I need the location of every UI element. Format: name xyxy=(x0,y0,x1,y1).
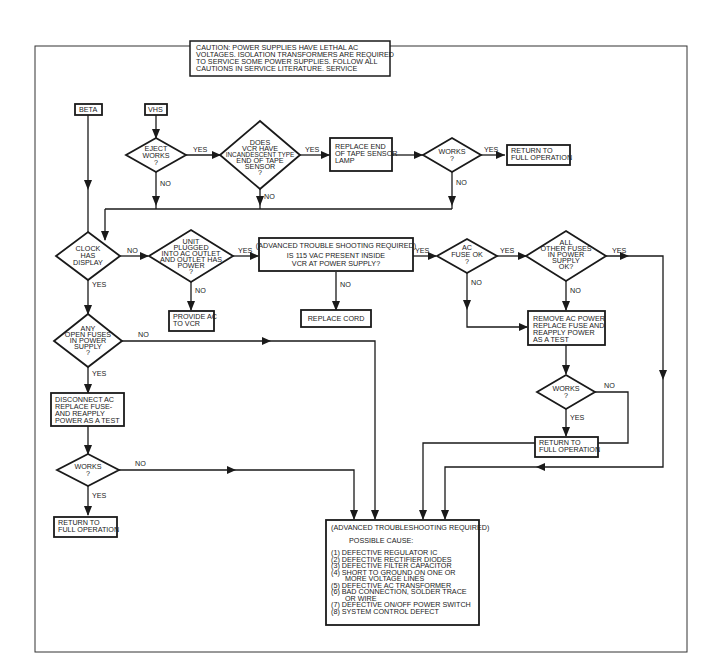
start-beta: BETA xyxy=(75,104,102,115)
action-provide-ac: PROVIDE AC TO VCR xyxy=(169,311,217,331)
action-remove-ac-power: REMOVE AC POWER REPLACE FUSE AND REAPPLY… xyxy=(528,311,605,345)
svg-text:VHS: VHS xyxy=(148,105,163,114)
result-return-left: RETURN TO FULL OPERATION xyxy=(54,517,119,537)
caution-box: CAUTION: POWER SUPPLIES HAVE LETHAL AC V… xyxy=(190,41,394,76)
decision-other-fuses-ok: ALL OTHER FUSES IN POWER SUPPLY OK? xyxy=(526,231,606,281)
svg-text:?: ? xyxy=(86,469,90,478)
svg-text:(ADVANCED TROUBLESHOOTING REQU: (ADVANCED TROUBLESHOOTING REQUIRED) xyxy=(331,523,489,532)
svg-text:YES: YES xyxy=(193,145,208,154)
svg-text:OK?: OK? xyxy=(559,262,573,271)
svg-text:NO: NO xyxy=(195,286,206,295)
svg-text:YES: YES xyxy=(238,246,253,255)
decision-ac-fuse-ok: AC FUSE OK ? xyxy=(437,239,497,273)
svg-text:VCR AT POWER SUPPLY?: VCR AT POWER SUPPLY? xyxy=(292,259,380,268)
decision-clock-display: CLOCK HAS DISPLAY xyxy=(56,232,120,280)
decision-works-right: WORKS ? xyxy=(537,375,595,409)
decision-eject-works: EJECT WORKS ? xyxy=(126,138,186,172)
svg-text:YES: YES xyxy=(570,413,585,422)
svg-text:NO: NO xyxy=(471,278,482,287)
svg-text:?: ? xyxy=(465,257,469,266)
svg-text:NO: NO xyxy=(340,280,351,289)
svg-text:YES: YES xyxy=(415,246,430,255)
action-replace-cord: REPLACE CORD xyxy=(301,310,371,327)
svg-text:REPLACE CORD: REPLACE CORD xyxy=(308,314,365,323)
svg-text:NO: NO xyxy=(138,330,149,339)
decision-unit-plugged: UNIT PLUGGED INTO AC OUTLET AND OUTLET H… xyxy=(149,230,233,282)
svg-text:LAMP: LAMP xyxy=(335,156,355,165)
svg-text:TO VCR: TO VCR xyxy=(173,319,200,328)
svg-text:?: ? xyxy=(450,154,454,163)
svg-text:?: ? xyxy=(189,267,193,276)
svg-text:POSSIBLE CAUSE:: POSSIBLE CAUSE: xyxy=(349,536,413,545)
svg-text:NO: NO xyxy=(135,459,146,468)
svg-text:?: ? xyxy=(154,158,158,167)
decision-works-left: WORKS ? xyxy=(57,454,119,486)
svg-text:YES: YES xyxy=(92,491,107,500)
svg-text:NO: NO xyxy=(127,246,138,255)
action-check-115vac: (ADVANCED TROUBLE SHOOTING REQUIRED) IS … xyxy=(256,238,416,271)
decision-open-fuses: ANY OPEN FUSES IN POWER SUPPLY ? xyxy=(54,314,122,367)
svg-text:NO: NO xyxy=(570,286,581,295)
svg-text:NO: NO xyxy=(604,381,615,390)
action-replace-lamp: REPLACE END OF TAPE SENSOR LAMP xyxy=(330,138,397,171)
svg-text:BETA: BETA xyxy=(79,105,97,114)
svg-text:?: ? xyxy=(86,348,90,357)
svg-text:(8) SYSTEM CONTROL DEFECT: (8) SYSTEM CONTROL DEFECT xyxy=(331,607,440,616)
svg-text:YES: YES xyxy=(500,246,515,255)
svg-text:NO: NO xyxy=(160,179,171,188)
svg-text:DISPLAY: DISPLAY xyxy=(73,258,103,267)
svg-text:FULL OPERATION: FULL OPERATION xyxy=(58,525,119,534)
svg-text:YES: YES xyxy=(305,145,320,154)
final-possible-causes-box: (ADVANCED TROUBLESHOOTING REQUIRED) POSS… xyxy=(326,520,489,625)
svg-text:(ADVANCED TROUBLE SHOOTING REQ: (ADVANCED TROUBLE SHOOTING REQUIRED) xyxy=(256,241,416,250)
decision-incandescent-sensor: DOES VCR HAVE INCANDESCENT TYPE END OF T… xyxy=(220,121,300,189)
start-vhs: VHS xyxy=(145,104,167,115)
power-supply-troubleshooting-flowchart: CAUTION: POWER SUPPLIES HAVE LETHAL AC V… xyxy=(0,0,716,668)
svg-text:YES: YES xyxy=(612,246,627,255)
action-disconnect-ac: DISCONNECT AC REPLACE FUSE- AND REAPPLY … xyxy=(51,393,124,426)
decision-works-top: WORKS ? xyxy=(423,138,481,172)
svg-text:NO: NO xyxy=(264,192,275,201)
svg-text:FULL OPERATION: FULL OPERATION xyxy=(511,153,572,162)
svg-text:NO: NO xyxy=(456,178,467,187)
result-return-top: RETURN TO FULL OPERATION xyxy=(507,145,572,165)
svg-text:YES: YES xyxy=(484,145,499,154)
svg-text:YES: YES xyxy=(92,280,107,289)
result-return-right: RETURN TO FULL OPERATION xyxy=(535,437,600,457)
svg-text:CAUTIONS IN SERVICE LITERATURE: CAUTIONS IN SERVICE LITERATURE. SERVICE xyxy=(196,64,358,73)
svg-text:AS A TEST: AS A TEST xyxy=(533,335,569,344)
svg-text:?: ? xyxy=(564,391,568,400)
svg-text:?: ? xyxy=(258,168,262,177)
svg-text:YES: YES xyxy=(92,369,107,378)
svg-text:POWER AS A TEST: POWER AS A TEST xyxy=(55,416,120,425)
svg-text:FULL OPERATION: FULL OPERATION xyxy=(539,445,600,454)
